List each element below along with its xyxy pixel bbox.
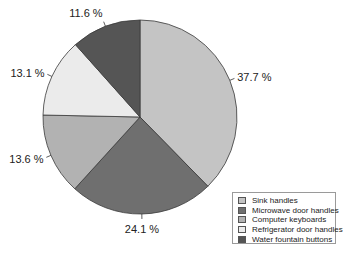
label-leader [47,74,52,76]
legend-label: Water fountain buttons [252,235,332,244]
pie-value-label: 13.1 % [10,67,44,79]
legend-item-computer-keyboards: Computer keyboards [238,215,335,225]
legend-swatch [238,226,246,233]
legend-swatch [238,197,246,204]
legend: Sink handles Microwave door handles Comp… [232,192,336,244]
label-leader [46,155,51,157]
label-leader [104,22,106,27]
legend-label: Sink handles [252,196,298,205]
pie-slices [43,20,237,214]
pie-value-label: 13.6 % [9,153,43,165]
legend-label: Computer keyboards [252,215,326,224]
legend-item-microwave-door-handles: Microwave door handles [238,206,335,216]
pie-value-label: 37.7 % [237,71,271,83]
legend-swatch [238,236,246,243]
legend-item-refrigerator-door-handles: Refrigerator door handles [238,225,335,235]
label-leader [230,78,235,80]
legend-swatch [238,216,246,223]
legend-label: Microwave door handles [252,206,339,215]
legend-item-water-fountain-buttons: Water fountain buttons [238,234,335,244]
legend-item-sink-handles: Sink handles [238,196,335,206]
pie-value-label: 24.1 % [125,223,159,235]
pie-value-label: 11.6 % [69,7,103,19]
legend-swatch [238,207,246,214]
legend-label: Refrigerator door handles [252,225,343,234]
